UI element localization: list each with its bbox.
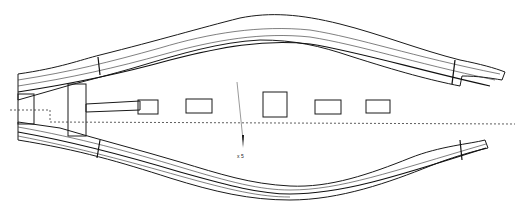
block-3	[315, 100, 341, 114]
block-4	[366, 100, 390, 113]
axis-label: x 5	[237, 153, 244, 159]
block-1	[186, 99, 212, 113]
upper-beam-body	[18, 15, 505, 100]
axis-arrow: x 5	[237, 82, 244, 159]
lower-beam	[18, 122, 488, 200]
mesh-diagram: x 5	[0, 0, 519, 215]
lower-beam-body	[18, 122, 488, 200]
block-2	[263, 92, 287, 117]
inner-clamp	[68, 84, 86, 136]
arrow-icon	[242, 135, 244, 148]
upper-beam	[18, 15, 505, 100]
center-rod	[86, 100, 158, 114]
left-clamp	[18, 94, 34, 124]
